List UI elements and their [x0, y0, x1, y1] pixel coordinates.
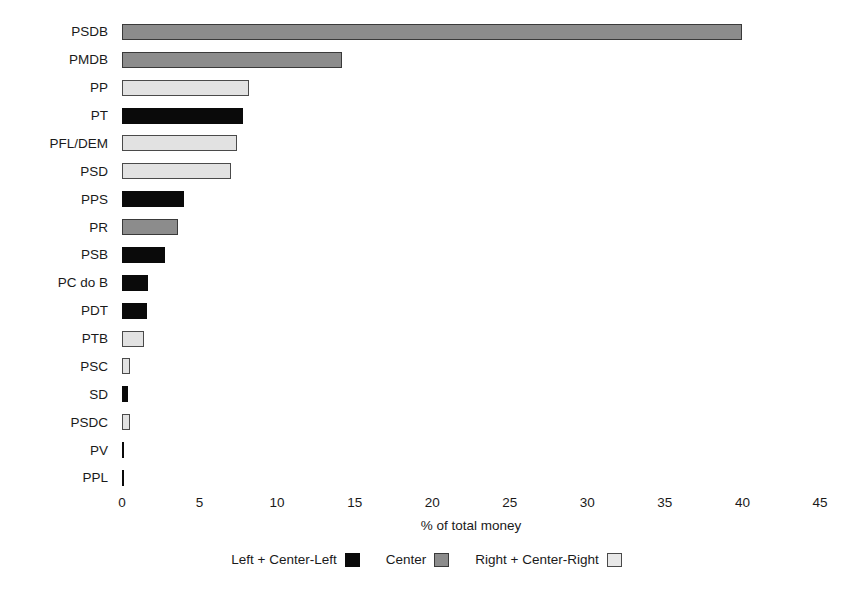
- bar-pdt: [122, 303, 147, 319]
- x-axis-title: % of total money: [122, 518, 820, 533]
- y-axis-tick-labels: PSDBPMDBPPPTPFL/DEMPSDPPSPRPSBPC do BPDT…: [0, 18, 115, 492]
- y-axis-tick-label: SD: [0, 380, 115, 408]
- bar-psdc: [122, 414, 130, 430]
- y-axis-tick-label: PDT: [0, 297, 115, 325]
- legend-swatch-right: [607, 553, 622, 567]
- bar-pp: [122, 80, 249, 96]
- y-axis-tick-label: PMDB: [0, 46, 115, 74]
- bar-row: [122, 213, 820, 241]
- y-axis-tick-label: PFL/DEM: [0, 130, 115, 158]
- x-axis-tick-labels: 051015202530354045: [122, 495, 820, 515]
- bar-row: [122, 46, 820, 74]
- bar-row: [122, 130, 820, 158]
- bar-row: [122, 325, 820, 353]
- legend-item: Center: [386, 552, 450, 567]
- legend-swatch-left: [345, 553, 360, 567]
- x-axis-tick-label: 30: [580, 495, 595, 510]
- y-axis-tick-label: PSDB: [0, 18, 115, 46]
- bar-row: [122, 18, 820, 46]
- bar-chart: Party PSDBPMDBPPPTPFL/DEMPSDPPSPRPSBPC d…: [0, 0, 853, 596]
- bar-row: [122, 408, 820, 436]
- x-axis-tick-label: 40: [735, 495, 750, 510]
- y-axis-tick-label: PPL: [0, 464, 115, 492]
- bar-row: [122, 269, 820, 297]
- x-axis-tick-label: 35: [657, 495, 672, 510]
- bar-ptb: [122, 331, 144, 347]
- bar-row: [122, 185, 820, 213]
- x-axis-tick-label: 0: [118, 495, 126, 510]
- y-axis-tick-label: PV: [0, 436, 115, 464]
- bar-psdb: [122, 24, 742, 40]
- bar-row: [122, 380, 820, 408]
- bar-pfl-dem: [122, 135, 237, 151]
- bar-sd: [122, 386, 128, 402]
- bar-row: [122, 464, 820, 492]
- x-axis-tick-label: 20: [425, 495, 440, 510]
- bar-row: [122, 157, 820, 185]
- bar-pr: [122, 219, 178, 235]
- legend-item: Left + Center-Left: [231, 552, 359, 567]
- legend-swatch-center: [434, 553, 449, 567]
- plot-area: [122, 18, 820, 492]
- bar-pps: [122, 191, 184, 207]
- bar-psc: [122, 358, 130, 374]
- y-axis-tick-label: PSD: [0, 157, 115, 185]
- x-axis-tick-label: 25: [502, 495, 517, 510]
- bar-pc-do-b: [122, 275, 148, 291]
- y-axis-tick-label: PPS: [0, 185, 115, 213]
- bar-row: [122, 297, 820, 325]
- bar-psd: [122, 163, 231, 179]
- x-axis-tick-label: 15: [347, 495, 362, 510]
- bar-pv: [122, 442, 124, 458]
- y-axis-tick-label: PSC: [0, 353, 115, 381]
- y-axis-tick-label: PSDC: [0, 408, 115, 436]
- y-axis-tick-label: PT: [0, 102, 115, 130]
- legend-item: Right + Center-Right: [475, 552, 621, 567]
- bar-rows: [122, 18, 820, 492]
- y-axis-tick-label: PTB: [0, 325, 115, 353]
- bar-psb: [122, 247, 165, 263]
- bar-row: [122, 353, 820, 381]
- x-axis-tick-label: 45: [812, 495, 827, 510]
- x-axis-tick-label: 5: [196, 495, 204, 510]
- y-axis-tick-label: PP: [0, 74, 115, 102]
- y-axis-tick-label: PR: [0, 213, 115, 241]
- bar-row: [122, 102, 820, 130]
- bar-ppl: [122, 470, 124, 486]
- y-axis-tick-label: PC do B: [0, 269, 115, 297]
- bar-pmdb: [122, 52, 342, 68]
- bar-row: [122, 436, 820, 464]
- y-axis-tick-label: PSB: [0, 241, 115, 269]
- bar-pt: [122, 108, 243, 124]
- legend-label: Right + Center-Right: [475, 552, 598, 567]
- chart-legend: Left + Center-LeftCenterRight + Center-R…: [0, 552, 853, 567]
- legend-label: Left + Center-Left: [231, 552, 336, 567]
- bar-row: [122, 241, 820, 269]
- bar-row: [122, 74, 820, 102]
- legend-label: Center: [386, 552, 427, 567]
- x-axis-tick-label: 10: [270, 495, 285, 510]
